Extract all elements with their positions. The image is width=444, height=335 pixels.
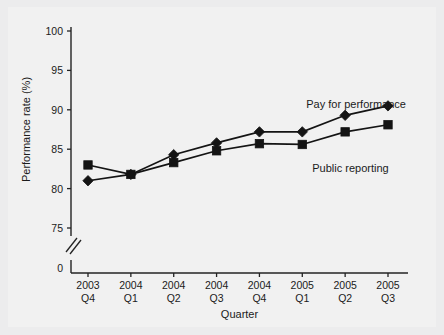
- y-tick-label-75: 75: [51, 222, 63, 234]
- data-point-pfp-6: [340, 110, 350, 120]
- plot-panel: 10095908580750Performance rate (%)2003Q4…: [8, 7, 436, 327]
- data-point-pr-2: [170, 158, 178, 166]
- line-chart: 10095908580750Performance rate (%)2003Q4…: [8, 7, 436, 327]
- y-tick-label-100: 100: [45, 25, 63, 37]
- data-point-pr-3: [212, 147, 220, 155]
- x-tick-label-year-4: 2004: [248, 279, 272, 291]
- axis-break-slash-1: [66, 238, 77, 252]
- data-point-pfp-0: [83, 176, 93, 186]
- data-point-pr-6: [341, 128, 349, 136]
- x-tick-label-year-6: 2005: [333, 279, 357, 291]
- x-tick-label-quarter-5: Q1: [295, 292, 309, 304]
- y-tick-label-85: 85: [51, 143, 63, 155]
- data-point-pr-5: [298, 140, 306, 148]
- data-point-pr-1: [127, 170, 135, 178]
- x-tick-label-quarter-7: Q3: [381, 292, 395, 304]
- x-tick-label-year-5: 2005: [291, 279, 315, 291]
- series-label-pay-for-performance: Pay for performance: [306, 98, 406, 110]
- y-axis-title: Performance rate (%): [20, 77, 32, 182]
- x-tick-label-year-7: 2005: [376, 279, 400, 291]
- axis-break-slash-2: [70, 240, 81, 254]
- x-tick-label-quarter-2: Q2: [167, 292, 181, 304]
- y-tick-label-0: 0: [57, 262, 63, 274]
- y-tick-label-95: 95: [51, 64, 63, 76]
- x-tick-label-year-1: 2004: [119, 279, 143, 291]
- data-point-pfp-4: [254, 127, 264, 137]
- data-point-pr-4: [255, 139, 263, 147]
- data-point-pr-7: [384, 121, 392, 129]
- series-label-public-reporting: Public reporting: [312, 162, 388, 174]
- data-point-pfp-5: [297, 127, 307, 137]
- x-tick-label-quarter-1: Q1: [124, 292, 138, 304]
- x-tick-label-year-0: 2003: [76, 279, 100, 291]
- x-tick-label-quarter-0: Q4: [81, 292, 95, 304]
- y-tick-label-80: 80: [51, 183, 63, 195]
- x-tick-label-year-3: 2004: [205, 279, 229, 291]
- x-axis-title: Quarter: [221, 308, 259, 320]
- data-point-pr-0: [84, 161, 92, 169]
- x-tick-label-quarter-3: Q3: [210, 292, 224, 304]
- y-tick-label-90: 90: [51, 104, 63, 116]
- x-tick-label-quarter-6: Q2: [338, 292, 352, 304]
- chart-figure: 10095908580750Performance rate (%)2003Q4…: [0, 0, 444, 335]
- x-tick-label-quarter-4: Q4: [252, 292, 266, 304]
- x-tick-label-year-2: 2004: [162, 279, 186, 291]
